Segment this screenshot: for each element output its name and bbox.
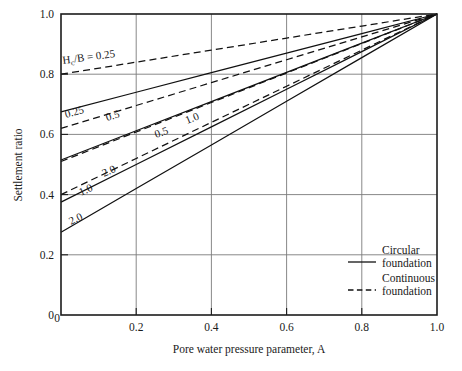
y-tick-label: 0.6: [40, 128, 55, 140]
x-tick-label: 0: [54, 312, 60, 324]
y-axis-title: Settlement ratio: [12, 128, 24, 201]
legend-label-circular-line2: foundation: [382, 257, 432, 269]
x-tick-label: 0.6: [279, 321, 294, 333]
y-tick-label: 0.8: [40, 68, 55, 80]
x-axis-title: Pore water pressure parameter, A: [173, 343, 326, 356]
settlement-ratio-chart: 0 0.2 0.4 0.6 0.8 1.0 0 0.2 0.4 0.6 0.8 …: [0, 0, 462, 371]
y-tick-label: 1.0: [40, 8, 55, 20]
plot-background: [61, 14, 437, 315]
chart-svg: 0 0.2 0.4 0.6 0.8 1.0 0 0.2 0.4 0.6 0.8 …: [0, 0, 462, 371]
y-tick-label: 0: [48, 309, 54, 321]
x-tick-label: 0.8: [355, 321, 370, 333]
legend-label-continuous-line2: foundation: [382, 285, 432, 297]
y-tick-labels: 0 0.2 0.4 0.6 0.8 1.0: [40, 8, 55, 321]
x-tick-label: 1.0: [430, 321, 445, 333]
y-tick-label: 0.2: [40, 249, 55, 261]
y-tick-label: 0.4: [40, 189, 55, 201]
legend-label-circular-line1: Circular: [382, 244, 420, 256]
x-tick-label: 0.4: [204, 321, 219, 333]
x-tick-label: 0.2: [129, 321, 144, 333]
legend-label-continuous-line1: Continuous: [382, 272, 436, 284]
